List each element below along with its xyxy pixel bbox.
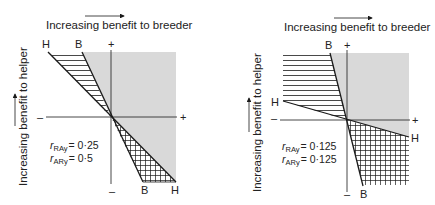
label-h-right: H [411, 132, 419, 144]
relatedness-block: rRAy= 0·125 rARy= 0·125 [282, 140, 337, 167]
sign-top: + [344, 39, 350, 51]
sign-right: + [412, 114, 418, 126]
relatedness-ary: rARy= 0·125 [282, 153, 337, 167]
relatedness-ray: rRAy= 0·125 [282, 140, 337, 154]
label-h-bottom: H [171, 184, 179, 196]
x-axis-label: Increasing benefit to breeder [284, 21, 431, 33]
diagram-canvas: Increasing benefit to breeder Increasing… [0, 0, 435, 205]
relatedness-ray: rRAy= 0·25 [50, 139, 99, 153]
label-h-top: H [42, 38, 50, 50]
label-b-bottom: B [360, 188, 367, 200]
sign-bottom: – [109, 185, 116, 197]
left-panel: Increasing benefit to breeder Increasing… [15, 16, 193, 197]
sign-left: – [37, 111, 44, 123]
sign-bottom: – [344, 188, 351, 200]
sign-top: + [108, 38, 114, 50]
sign-left: – [271, 112, 278, 124]
label-b-top: B [325, 39, 332, 51]
relatedness-block: rRAy= 0·25 rARy= 0·5 [50, 139, 99, 166]
shaded-region [330, 53, 409, 137]
label-b-bottom: B [141, 184, 148, 196]
sign-right: + [180, 111, 186, 123]
y-axis-label: Increasing benefit to helper [17, 47, 29, 186]
x-axis-label: Increasing benefit to breeder [46, 19, 193, 31]
right-panel: Increasing benefit to breeder Increasing… [249, 18, 431, 200]
label-b-top: B [75, 38, 82, 50]
label-h-left: H [271, 96, 279, 108]
relatedness-ary: rARy= 0·5 [50, 152, 93, 166]
y-axis-label: Increasing benefit to helper [251, 53, 263, 192]
